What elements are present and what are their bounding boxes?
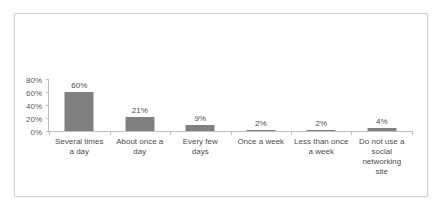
- x-axis-tick-4: [291, 131, 292, 135]
- y-axis-label-40: 40%: [12, 102, 42, 111]
- bar-slot-5: 4% Do not use a social networking site: [351, 79, 412, 131]
- x-axis-tick-2: [170, 131, 171, 135]
- x-axis-tick-0: [49, 131, 50, 135]
- bar-slot-3: 2% Once a week: [231, 79, 292, 131]
- chart-frame: 80% 60% 40% 20% 0% 60% Several times a d…: [14, 13, 428, 197]
- bar-every-few-days[interactable]: 9%: [186, 125, 215, 131]
- bar-value-label-2: 9%: [194, 114, 206, 123]
- x-axis-category-label-1: About once a day: [108, 137, 172, 157]
- x-axis-category-label-5: Do not use a social networking site: [350, 137, 414, 177]
- x-axis-category-label-4: Less than once a week: [289, 137, 353, 157]
- bar-slot-4: 2% Less than once a week: [291, 79, 352, 131]
- y-axis-label-80: 80%: [12, 76, 42, 85]
- bar-slot-1: 21% About once a day: [110, 79, 171, 131]
- bar-do-not-use-a-social-networking-site[interactable]: 4%: [367, 128, 396, 131]
- x-axis-tick-5: [351, 131, 352, 135]
- bar-slot-0: 60% Several times a day: [49, 79, 110, 131]
- bar-less-than-once-a-week[interactable]: 2%: [307, 130, 336, 131]
- bar-value-label-0: 60%: [71, 81, 87, 90]
- y-axis-label-60: 60%: [12, 89, 42, 98]
- x-axis-tick-1: [110, 131, 111, 135]
- bar-several-times-a-day[interactable]: 60%: [65, 92, 94, 131]
- x-axis-tick-3: [231, 131, 232, 135]
- bar-once-a-week[interactable]: 2%: [246, 130, 275, 131]
- y-axis-label-0: 0%: [12, 128, 42, 137]
- x-axis-category-label-3: Once a week: [229, 137, 293, 147]
- bar-value-label-3: 2%: [255, 119, 267, 128]
- bar-value-label-1: 21%: [132, 106, 148, 115]
- x-axis-tick-6: [412, 131, 413, 135]
- x-axis-category-label-2: Every few days: [168, 137, 232, 157]
- bar-value-label-4: 2%: [315, 119, 327, 128]
- bar-slot-2: 9% Every few days: [170, 79, 231, 131]
- y-axis-label-20: 20%: [12, 115, 42, 124]
- bar-about-once-a-day[interactable]: 21%: [125, 117, 154, 131]
- x-axis-category-label-0: Several times a day: [47, 137, 111, 157]
- bar-value-label-5: 4%: [376, 117, 388, 126]
- plot-area: 80% 60% 40% 20% 0% 60% Several times a d…: [48, 79, 412, 132]
